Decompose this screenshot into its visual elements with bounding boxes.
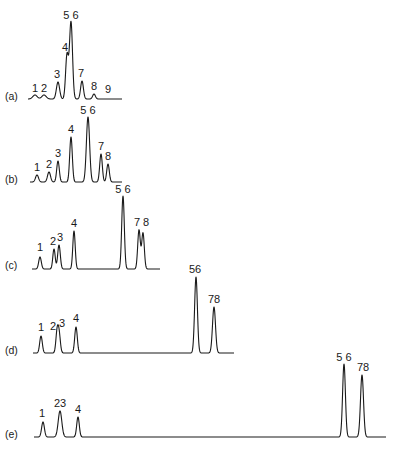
peak-label: 4 [73, 312, 79, 324]
peak-label: 4 [68, 123, 74, 135]
peak-label: 2 [50, 320, 56, 332]
peak-label: 3 [59, 317, 65, 329]
panel-label: (d) [5, 344, 18, 356]
trace-line [33, 277, 234, 353]
peak-label: 23 [54, 397, 66, 409]
panel-label: (b) [5, 173, 18, 185]
chromatogram-c: (c)12345 678 [5, 183, 160, 271]
peak-label: 5 6 [115, 183, 130, 195]
peak-label: 8 [143, 216, 149, 228]
peak-label: 1 [39, 407, 45, 419]
peak-label: 4 [62, 41, 68, 53]
peak-label: 1 [34, 161, 40, 173]
peak-label: 3 [57, 231, 63, 243]
peak-label: 8 [91, 80, 97, 92]
peak-label: 3 [54, 68, 60, 80]
trace-line [32, 196, 160, 269]
panel-label: (e) [5, 428, 18, 440]
peak-label: 78 [208, 293, 220, 305]
peak-label: 78 [357, 361, 369, 373]
panel-label: (c) [5, 259, 17, 271]
peak-label: 8 [105, 150, 111, 162]
peak-label: 4 [75, 403, 81, 415]
peak-label: 56 [189, 263, 201, 275]
peak-label: 5 6 [336, 351, 351, 363]
chromatogram-d: (d)12345678 [5, 263, 234, 356]
peak-label: 7 [78, 67, 84, 79]
panel-label: (a) [5, 90, 18, 102]
peak-label: 9 [105, 83, 111, 95]
peak-label: 1 [38, 321, 44, 333]
peak-label: 5 6 [63, 9, 78, 21]
peak-label: 1 [32, 82, 38, 94]
chromatogram-figure: (a)12345 6789(b)12345 678(c)12345 678(d)… [0, 0, 396, 454]
peak-label: 3 [55, 147, 61, 159]
peak-label: 2 [41, 82, 47, 94]
chromatogram-panels: (a)12345 6789(b)12345 678(c)12345 678(d)… [5, 9, 386, 440]
peak-label: 1 [37, 241, 43, 253]
chromatogram-e: (e)12345 678 [5, 351, 386, 440]
peak-label: 4 [71, 217, 77, 229]
peak-label: 7 [134, 216, 140, 228]
peak-label: 2 [50, 235, 56, 247]
peak-label: 7 [98, 140, 104, 152]
peak-label: 2 [46, 158, 52, 170]
trace-line [34, 364, 386, 437]
peak-label: 5 6 [80, 104, 95, 116]
chromatogram-a: (a)12345 6789 [5, 9, 122, 102]
chromatogram-b: (b)12345 678 [5, 104, 122, 185]
